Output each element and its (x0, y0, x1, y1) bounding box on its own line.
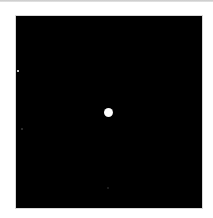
faint-point-source (21, 128, 23, 130)
dark-sky-image-panel (16, 16, 202, 208)
faint-point-source (107, 187, 109, 189)
top-divider (0, 0, 213, 2)
image-caption (16, 211, 202, 218)
faint-point-source (17, 70, 19, 72)
bright-point-source (104, 108, 113, 117)
